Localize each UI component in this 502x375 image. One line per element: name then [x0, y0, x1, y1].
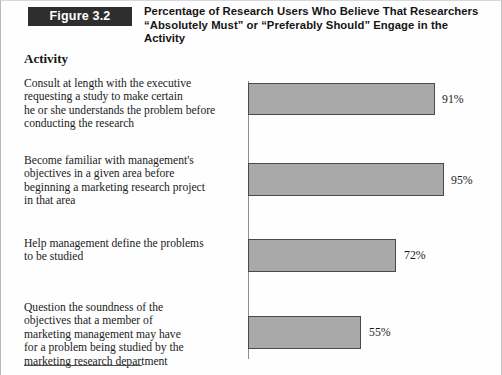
bar-category-label: Question the soundness of the objectives…: [24, 301, 242, 368]
bar-label-line: Consult at length with the executive: [24, 77, 242, 90]
bar-label-line: conducting the research: [24, 117, 242, 130]
bar-category-label: Help management define the problems to b…: [24, 237, 242, 264]
bar-label-line: Question the soundness of the: [24, 301, 242, 314]
bar-label-line: Become familiar with management's: [24, 154, 242, 167]
bar-rect: [248, 83, 435, 115]
bar-category-label: Consult at length with the executive req…: [24, 77, 242, 131]
bar-value-label: 91%: [442, 92, 464, 107]
bar-rect: [248, 163, 444, 196]
bar-label-line: objectives in a given area before: [24, 167, 242, 180]
bar-chart-plot-area: Consult at length with the executive req…: [1, 1, 502, 375]
bar-value-label: 95%: [451, 173, 473, 188]
bar-category-label: Become familiar with management's object…: [24, 154, 242, 208]
bar-label-line: Help management define the problems: [24, 237, 242, 250]
bar-label-line: requesting a study to make certain: [24, 90, 242, 103]
bar-label-line: he or she understands the problem before: [24, 104, 242, 117]
footnote-divider: [24, 365, 142, 366]
bar-rect: [248, 316, 361, 349]
bar-label-line: in that area: [24, 194, 242, 207]
bar-value-label: 72%: [404, 248, 426, 263]
bar-label-line: beginning a marketing research project: [24, 181, 242, 194]
bar-label-line: marketing research department: [24, 355, 242, 368]
bar-rect: [248, 239, 396, 272]
bar-label-line: for a problem being studied by the: [24, 341, 242, 354]
bar-label-line: marketing management may have: [24, 328, 242, 341]
bar-label-line: to be studied: [24, 250, 242, 263]
figure-page: Figure 3.2 Percentage of Research Users …: [0, 0, 502, 375]
bar-label-line: objectives that a member of: [24, 314, 242, 327]
bar-value-label: 55%: [369, 325, 391, 340]
